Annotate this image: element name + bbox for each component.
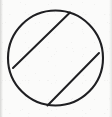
figure-background	[0, 0, 112, 117]
geometric-figure: Circle with two parallel chords	[0, 0, 112, 117]
figure-canvas	[0, 0, 112, 117]
